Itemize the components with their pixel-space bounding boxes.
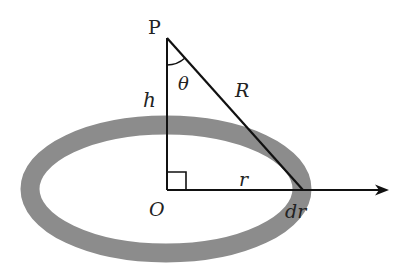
label-angle: θ	[178, 73, 189, 94]
label-center: O	[149, 198, 165, 220]
right-angle-marker	[167, 172, 186, 190]
angle-arc	[167, 58, 185, 65]
label-distance: R	[234, 79, 249, 101]
label-height: h	[143, 88, 156, 112]
ring-element-diagram: P h θ R O r dr	[0, 0, 405, 268]
label-point-p: P	[148, 16, 161, 38]
label-radius: r	[239, 168, 250, 190]
distance-line	[167, 38, 303, 190]
label-ring-width: dr	[285, 200, 308, 222]
